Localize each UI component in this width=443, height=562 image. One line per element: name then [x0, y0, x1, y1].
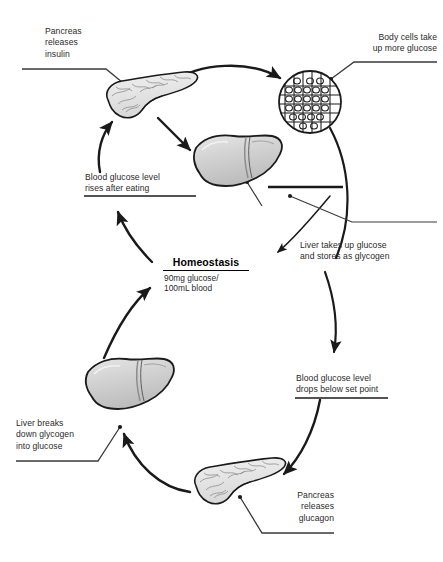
homeostasis-divider: [163, 270, 249, 271]
arc-right-to-glucose-drops: [325, 272, 336, 352]
label-line: drops below set point: [296, 384, 378, 395]
label-line: Blood glucose level: [85, 172, 160, 183]
label-line: Body cells take: [300, 32, 437, 43]
label-line: Blood glucose level: [296, 373, 378, 384]
label-line: down glycogen: [16, 429, 74, 440]
label-line: into glucose: [16, 441, 74, 452]
label-line: and stores as glycogen: [300, 251, 389, 262]
homeostasis-value-line-2: 100mL blood: [163, 283, 249, 294]
leader-liver-top-pointer: [245, 180, 262, 206]
label-line: Liver breaks: [16, 418, 74, 429]
label-liver-breaks-down-glycogen: Liver breaks down glycogen into glucose: [16, 418, 74, 452]
body-cells-circle: [279, 71, 341, 133]
label-line: up more glucose: [300, 43, 437, 54]
liver-organ-bottom: [86, 358, 174, 409]
leader-liver-stores-glycogen: [288, 194, 437, 222]
arrow-pancreas-to-liver-top: [158, 118, 190, 150]
homeostasis-setpoint-block: Homeostasis 90mg glucose/ 100mL blood: [163, 256, 249, 294]
label-line: releases: [45, 37, 82, 48]
label-pancreas-releases-insulin: Pancreas releases insulin: [45, 26, 82, 60]
label-liver-takes-up-glucose: Liver takes up glucose and stores as gly…: [300, 240, 389, 263]
label-body-cells-take-up-glucose: Body cells take up more glucose: [300, 32, 437, 55]
label-blood-glucose-rises: Blood glucose level rises after eating: [85, 172, 160, 195]
label-line: rises after eating: [85, 183, 160, 194]
arrow-homeostasis-to-glucose-rises: [118, 212, 152, 262]
label-line: Pancreas: [274, 490, 334, 501]
arrow-liver-bottom-to-homeostasis: [104, 288, 150, 358]
label-line: insulin: [45, 49, 82, 60]
label-line: glucagon: [274, 513, 334, 524]
arc-body-cells-down: [330, 128, 347, 258]
label-line: Pancreas: [45, 26, 82, 37]
arrow-pancreas-to-liver-bottom: [124, 434, 190, 492]
arrow-glucose-drops-to-pancreas: [284, 400, 320, 474]
leader-body-cells: [329, 62, 437, 81]
homeostasis-title: Homeostasis: [163, 256, 249, 268]
pancreas-organ-top: [107, 72, 198, 118]
label-line: releases: [274, 501, 334, 512]
label-pancreas-releases-glucagon: Pancreas releases glucagon: [274, 490, 334, 524]
homeostasis-value-line-1: 90mg glucose/: [163, 273, 249, 284]
arrow-glucose-rises-to-pancreas: [99, 122, 112, 172]
homeostasis-diagram: Pancreas releases insulin Body cells tak…: [0, 0, 443, 562]
label-blood-glucose-drops: Blood glucose level drops below set poin…: [296, 373, 378, 396]
label-line: Liver takes up glucose: [300, 240, 389, 251]
liver-organ-top: [194, 135, 282, 186]
